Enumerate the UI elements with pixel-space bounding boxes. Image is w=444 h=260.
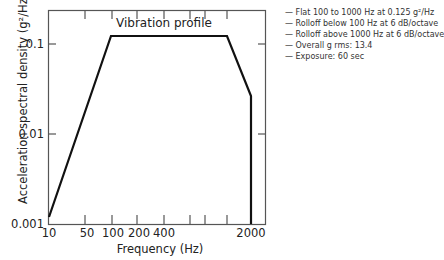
x-tick-2000: 2000	[231, 226, 271, 240]
chart-title: Vibration profile	[116, 16, 212, 30]
x-tick-400: 400	[144, 226, 184, 240]
y-tick-0.1: 0.1	[4, 37, 44, 51]
x-axis-label: Frequency (Hz)	[100, 242, 220, 256]
note-grms: — Overall g rms: 13.4	[285, 40, 444, 51]
note-flat: — Flat 100 to 1000 Hz at 0.125 g²/Hz	[285, 7, 444, 18]
x-ticks-bottom	[85, 215, 227, 224]
note-exposure: — Exposure: 60 sec	[285, 51, 444, 62]
vibration-profile-line	[49, 36, 251, 224]
x-tick-10: 10	[29, 226, 69, 240]
plot-frame	[49, 11, 266, 225]
y-axis-label: Acceleration spectral density (g²/Hz)	[16, 34, 30, 204]
y-tick-0.01: 0.01	[4, 127, 44, 141]
note-rolloff-below: — Rolloff below 100 Hz at 6 dB/octave	[285, 18, 444, 29]
annotation-notes: — Flat 100 to 1000 Hz at 0.125 g²/Hz — R…	[285, 7, 444, 62]
note-rolloff-above: — Rolloff above 1000 Hz at 6 dB/octave	[285, 29, 444, 40]
